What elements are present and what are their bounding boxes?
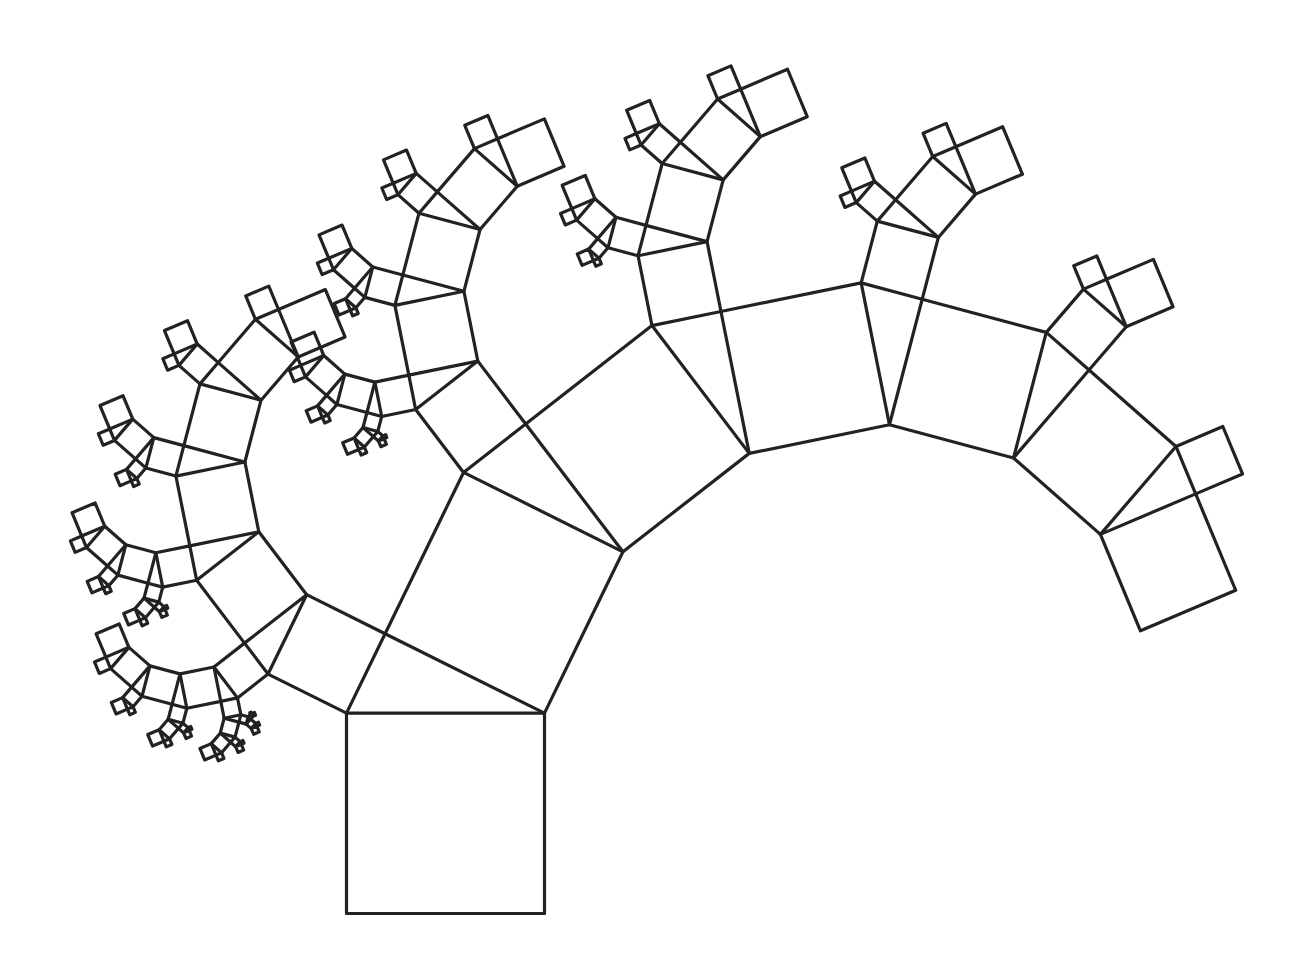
tree-square xyxy=(526,326,750,552)
tree-square xyxy=(561,209,577,225)
tree-square xyxy=(306,406,322,422)
tree-square xyxy=(317,258,333,274)
tree-square xyxy=(118,545,156,583)
tree-square xyxy=(465,115,498,148)
tree-square xyxy=(289,365,305,381)
tree-square xyxy=(646,164,723,242)
tree-square xyxy=(221,698,241,718)
tree-square xyxy=(1100,494,1235,631)
tree-square xyxy=(142,666,180,704)
tree-square xyxy=(214,643,268,698)
tree-square xyxy=(115,469,131,485)
tree-square xyxy=(87,577,103,593)
tree-squares xyxy=(70,66,1242,914)
tree-square xyxy=(378,439,386,447)
tree-square xyxy=(337,374,375,412)
tree-square xyxy=(146,438,184,476)
tree-square xyxy=(840,191,856,207)
tree-square xyxy=(200,744,216,760)
tree-square xyxy=(98,429,114,445)
tree-square xyxy=(246,286,279,319)
tree-square xyxy=(721,283,889,454)
tree-square xyxy=(708,66,741,99)
tree-square xyxy=(1176,427,1243,494)
tree-square xyxy=(395,291,478,375)
tree-square xyxy=(159,609,167,617)
tree-square xyxy=(403,213,480,291)
tree-square xyxy=(184,384,261,462)
tree-square xyxy=(608,217,646,255)
tree-square xyxy=(416,361,526,472)
tree-square xyxy=(375,375,416,416)
tree-square xyxy=(577,249,593,265)
tree-square xyxy=(347,713,545,913)
tree-square xyxy=(124,609,140,625)
tree-square xyxy=(148,730,164,746)
tree-square xyxy=(343,438,359,454)
tree-square xyxy=(365,267,403,305)
tree-square xyxy=(861,221,938,299)
tree-square xyxy=(382,183,398,199)
tree-square xyxy=(251,726,259,734)
tree-square xyxy=(1014,370,1176,534)
tree-square xyxy=(163,354,179,370)
tree-square xyxy=(252,712,256,716)
tree-square xyxy=(1074,256,1107,289)
tree-square xyxy=(176,462,259,546)
tree-square xyxy=(95,657,111,673)
tree-square xyxy=(184,730,192,738)
pythagoras-tree-figure: Pythagoras tree xyxy=(0,0,1310,969)
tree-square xyxy=(180,667,221,708)
tree-square xyxy=(385,472,623,713)
tree-square xyxy=(70,536,86,552)
tree-square xyxy=(334,299,350,315)
tree-square xyxy=(236,744,244,752)
tree-square xyxy=(111,698,127,714)
tree-square xyxy=(638,242,721,326)
tree-square xyxy=(923,123,956,156)
pythagoras-tree-svg xyxy=(0,0,1310,969)
tree-square xyxy=(156,546,197,587)
tree-square xyxy=(889,299,1046,458)
tree-square xyxy=(625,134,641,150)
